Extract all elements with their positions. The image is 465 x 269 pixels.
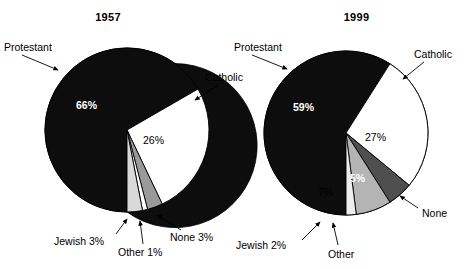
chart-title-1999: 1999 bbox=[240, 11, 465, 24]
label-jewish-1999: Jewish 2% bbox=[236, 239, 286, 251]
pie-1957 bbox=[44, 47, 210, 213]
chart-panel-1999: 1999 59% 27% 7% 5% Protestant Catholic J… bbox=[232, 0, 465, 269]
label-catholic-1999: Catholic bbox=[414, 48, 452, 60]
chart-title-1957: 1957 bbox=[0, 11, 224, 24]
pie-svg-1957 bbox=[44, 47, 210, 213]
pie-wedges-1999 bbox=[264, 51, 428, 215]
pct-catholic-1957: 26% bbox=[143, 134, 164, 146]
label-none-text-1999: None bbox=[422, 207, 447, 219]
label-none-1957: None 3% bbox=[170, 231, 213, 243]
label-other-1957: Other 1% bbox=[118, 246, 162, 258]
pct-other-1999: 7% bbox=[318, 186, 333, 198]
pie-chart-figure: 1957 66% 26% Protestant Catholic Jewish … bbox=[0, 0, 465, 269]
pie-svg-1999 bbox=[263, 50, 429, 216]
label-protestant-1999: Protestant bbox=[234, 41, 282, 53]
pie-wedges-1957 bbox=[45, 48, 209, 212]
label-other-text-1999: Other bbox=[328, 248, 354, 260]
pie-1999 bbox=[263, 50, 429, 216]
pct-protestant-1957: 66% bbox=[76, 99, 97, 111]
pct-catholic-1999: 27% bbox=[365, 131, 386, 143]
pct-none-1999: 5% bbox=[350, 172, 365, 184]
chart-panel-1957: 1957 66% 26% Protestant Catholic Jewish … bbox=[0, 0, 232, 269]
label-protestant-1957: Protestant bbox=[4, 41, 52, 53]
label-jewish-1957: Jewish 3% bbox=[54, 235, 104, 247]
pct-protestant-1999: 59% bbox=[293, 101, 314, 113]
